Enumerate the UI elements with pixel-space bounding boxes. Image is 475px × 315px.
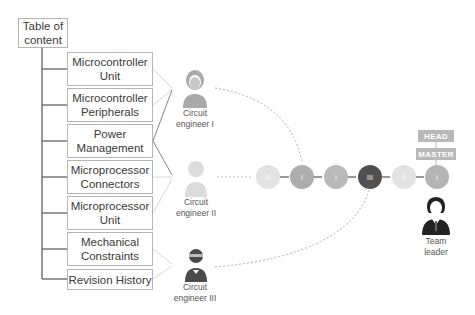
engineer-3-label: Circuit engineer III [166,282,224,304]
toc-item-microprocessor-unit[interactable]: Microprocessor Unit [67,196,153,230]
female-engineer-icon [180,68,210,108]
toc-item-label: Power Management [76,127,143,155]
engineer-1-label: Circuit engineer I [168,108,222,130]
toc-item-power-management[interactable]: Power Management [67,124,153,158]
toc-item-label: Microprocessor Connectors [71,163,150,191]
commit-node[interactable]: I [290,165,314,189]
toc-item-microcontroller-unit[interactable]: Microcontroller Unit [67,52,153,86]
toc-item-mechanical-constraints[interactable]: Mechanical Constraints [67,232,153,266]
engineer-2-label: Circuit engineer II [168,197,224,219]
commit-node[interactable]: I [425,165,449,189]
commit-node[interactable]: III [256,165,280,189]
engineer-goggles-icon [181,246,211,282]
male-engineer-icon [181,157,211,197]
toc-title: Table of content [23,19,63,47]
team-leader-icon [420,195,452,235]
commit-node[interactable]: II [392,165,416,189]
toc-title-box: Table of content [18,18,68,48]
commit-node[interactable]: I [324,165,348,189]
master-tag: MASTER [416,148,456,160]
toc-item-revision-history[interactable]: Revision History [67,269,153,290]
toc-item-microcontroller-peripherals[interactable]: Microcontroller Peripherals [67,88,153,122]
toc-item-microprocessor-connectors[interactable]: Microprocessor Connectors [67,160,153,194]
head-tag: HEAD [418,130,454,142]
toc-item-label: Mechanical Constraints [81,235,139,263]
commit-node[interactable]: III [358,165,382,189]
toc-item-label: Microcontroller Unit [72,55,147,83]
team-leader-label: Team leader [414,236,458,258]
toc-item-label: Microcontroller Peripherals [72,91,147,119]
toc-item-label: Revision History [68,273,151,287]
toc-item-label: Microprocessor Unit [71,199,150,227]
